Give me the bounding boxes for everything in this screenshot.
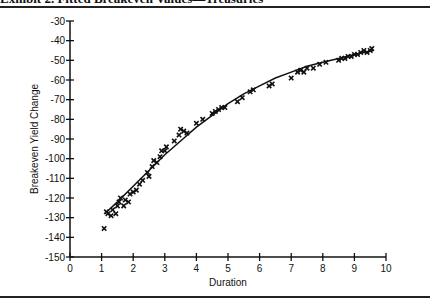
- y-axis-title: Breakeven Yield Change: [29, 84, 40, 195]
- x-tick-label: 3: [162, 263, 168, 274]
- x-tick-label: 8: [320, 263, 326, 274]
- x-tick-label: 0: [67, 263, 73, 274]
- x-tick-label: 6: [257, 263, 263, 274]
- x-tick-label: 1: [99, 263, 105, 274]
- data-point-marker: [172, 139, 176, 143]
- data-point-marker: [289, 76, 293, 80]
- y-tick-label: -100: [45, 153, 65, 164]
- scatter-chart: -30-40-50-60-70-80-90-100-110-120-130-14…: [0, 0, 437, 307]
- fitted-curve: [105, 51, 374, 214]
- x-tick-label: 9: [352, 263, 358, 274]
- data-point-marker: [311, 66, 315, 70]
- x-tick-label: 7: [288, 263, 294, 274]
- data-point-marker: [235, 99, 239, 103]
- y-tick-label: -90: [51, 134, 66, 145]
- axes: -30-40-50-60-70-80-90-100-110-120-130-14…: [45, 16, 392, 275]
- data-point-marker: [140, 178, 144, 182]
- y-tick-label: -60: [51, 75, 66, 86]
- data-point-marker: [194, 121, 198, 125]
- x-tick-label: 5: [225, 263, 231, 274]
- data-point-marker: [114, 212, 118, 216]
- y-tick-label: -120: [45, 193, 65, 204]
- data-point-marker: [158, 155, 162, 159]
- y-tick-label: -30: [51, 16, 66, 27]
- data-markers: [102, 46, 374, 230]
- data-point-marker: [201, 117, 205, 121]
- y-tick-label: -80: [51, 114, 66, 125]
- y-tick-label: -130: [45, 212, 65, 223]
- data-point-marker: [177, 133, 181, 137]
- y-tick-label: -150: [45, 252, 65, 263]
- y-tick-label: -70: [51, 94, 66, 105]
- x-tick-label: 10: [380, 263, 392, 274]
- data-point-marker: [240, 96, 244, 100]
- y-tick-label: -140: [45, 232, 65, 243]
- x-axis-title: Duration: [209, 277, 247, 288]
- y-tick-label: -50: [51, 55, 66, 66]
- data-point-marker: [102, 226, 106, 230]
- bottom-rule: [0, 296, 430, 298]
- y-tick-label: -40: [51, 35, 66, 46]
- x-tick-label: 2: [130, 263, 136, 274]
- x-tick-label: 4: [194, 263, 200, 274]
- y-tick-label: -110: [46, 173, 66, 184]
- data-point-marker: [122, 204, 126, 208]
